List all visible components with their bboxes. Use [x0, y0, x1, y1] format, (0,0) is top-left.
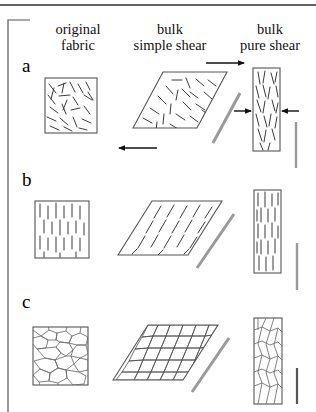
panel-c-pure-shear — [254, 318, 297, 404]
figure-graphics — [0, 0, 316, 412]
panel-b-simple-shear — [118, 201, 234, 268]
panel-a-original-fabric — [45, 78, 97, 133]
shear-plane-line — [213, 93, 240, 143]
panel-c-simple-shear — [113, 325, 229, 392]
figure-frame — [8, 20, 30, 412]
panel-a-simple-shear — [119, 63, 244, 148]
panel-c-original-fabric — [32, 325, 88, 386]
fabric-deformation-figure: original fabric bulk simple shear bulk p… — [0, 0, 316, 412]
panel-b-original-fabric — [35, 201, 89, 258]
panel-a-pure-shear — [234, 68, 299, 168]
panel-b-pure-shear — [254, 190, 297, 290]
